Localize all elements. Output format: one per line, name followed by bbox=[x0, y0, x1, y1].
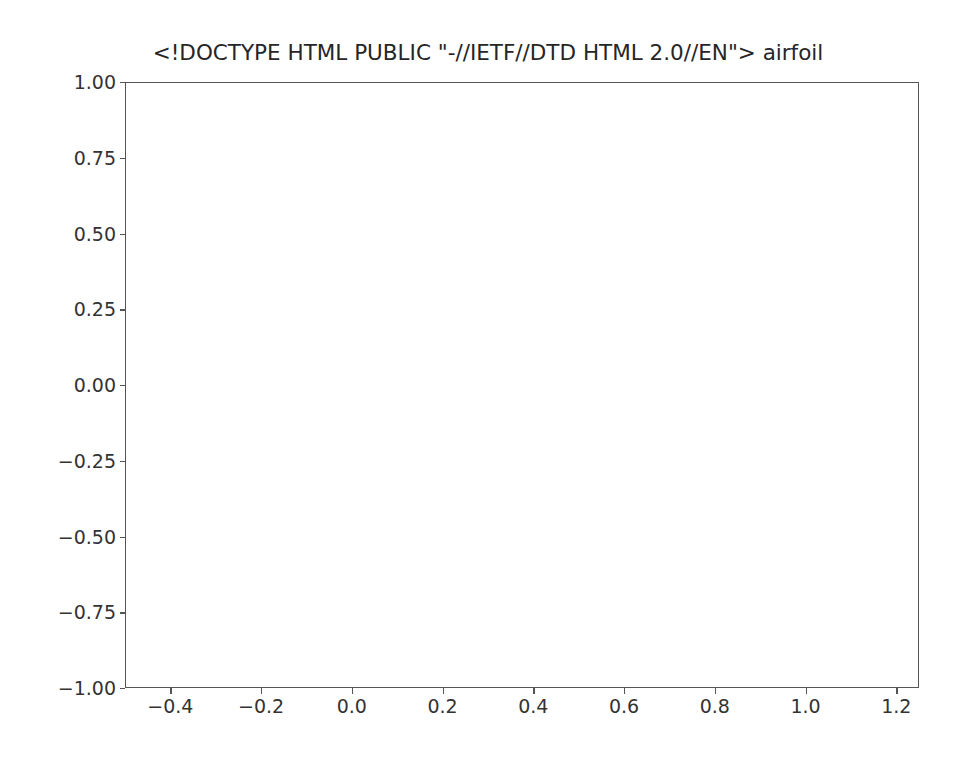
axis-spine-right bbox=[918, 82, 919, 688]
x-tick-label: −0.2 bbox=[238, 697, 284, 716]
x-tick-mark bbox=[715, 688, 716, 694]
y-tick-mark bbox=[120, 612, 126, 613]
x-tick-label: 0.0 bbox=[337, 697, 367, 716]
y-tick-mark bbox=[120, 385, 126, 386]
chart-title: <!DOCTYPE HTML PUBLIC "-//IETF//DTD HTML… bbox=[0, 40, 976, 66]
y-tick-mark bbox=[120, 82, 126, 83]
x-tick-mark bbox=[170, 688, 171, 694]
y-tick-label: 0.00 bbox=[74, 376, 116, 395]
y-tick-label: 1.00 bbox=[74, 73, 116, 92]
x-tick-label: 0.8 bbox=[700, 697, 730, 716]
y-tick-label: 0.75 bbox=[74, 148, 116, 167]
x-tick-label: 0.6 bbox=[609, 697, 639, 716]
y-tick-label: 0.50 bbox=[74, 224, 116, 243]
plot-axes: 1.00 0.75 0.50 0.25 0.00 −0.25 −0.50 −0.… bbox=[125, 82, 919, 688]
x-tick-mark bbox=[443, 688, 444, 694]
x-tick-mark bbox=[806, 688, 807, 694]
x-tick-label: 0.4 bbox=[518, 697, 548, 716]
axis-spine-bottom bbox=[125, 687, 919, 688]
y-tick-mark bbox=[120, 309, 126, 310]
x-tick-label: 0.2 bbox=[427, 697, 457, 716]
y-tick-label: −0.50 bbox=[58, 527, 116, 546]
y-tick-mark bbox=[120, 688, 126, 689]
y-tick-label: 0.25 bbox=[74, 300, 116, 319]
y-tick-mark bbox=[120, 537, 126, 538]
y-tick-mark bbox=[120, 158, 126, 159]
x-tick-label: 1.0 bbox=[790, 697, 820, 716]
y-tick-label: −0.75 bbox=[58, 603, 116, 622]
x-tick-mark bbox=[896, 688, 897, 694]
x-tick-mark bbox=[352, 688, 353, 694]
y-tick-mark bbox=[120, 461, 126, 462]
x-tick-label: 1.2 bbox=[881, 697, 911, 716]
matplotlib-figure: <!DOCTYPE HTML PUBLIC "-//IETF//DTD HTML… bbox=[0, 0, 976, 766]
x-tick-mark bbox=[261, 688, 262, 694]
y-tick-label: −0.25 bbox=[58, 451, 116, 470]
x-tick-mark bbox=[624, 688, 625, 694]
y-tick-mark bbox=[120, 234, 126, 235]
x-tick-label: −0.4 bbox=[147, 697, 193, 716]
plot-data-area bbox=[126, 83, 917, 686]
x-tick-mark bbox=[533, 688, 534, 694]
y-tick-label: −1.00 bbox=[58, 679, 116, 698]
